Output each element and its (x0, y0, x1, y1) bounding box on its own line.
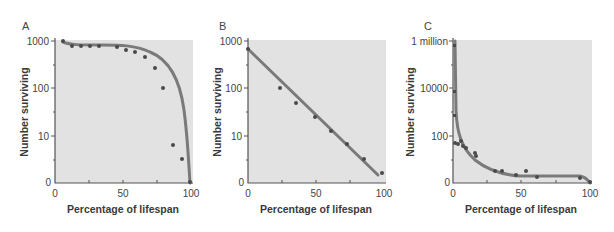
panel-c-plot-area (453, 40, 592, 183)
panel-a-plot-area (55, 40, 193, 183)
panel-b-xlabel: Percentage of lifespan (260, 203, 372, 215)
panel-a-ytick-0: 0 (45, 177, 51, 188)
panel-b-ytick-1000: 1000 (220, 36, 243, 47)
panel-b-letter: B (219, 20, 226, 32)
panel-b: B 1000 100 10 0 0 50 100 Percentage of l… (211, 20, 393, 215)
panel-c-ytick-100: 100 (431, 131, 448, 142)
panel-a-xtick-100: 100 (183, 188, 200, 199)
panel-c-xtick-100: 100 (582, 188, 599, 199)
panel-b-ytick-100: 100 (225, 83, 242, 94)
panel-c-ytick-0: 0 (444, 177, 450, 188)
panel-a-ytick-10: 10 (38, 131, 50, 142)
panel-b-xtick-50: 50 (310, 188, 322, 199)
panel-c-ytick-10000: 10000 (420, 83, 448, 94)
panel-c-xlabel: Percentage of lifespan (465, 203, 577, 215)
panel-a-ytick-100: 100 (32, 83, 49, 94)
panel-c: C 1 million 10000 100 0 0 50 100 Percent… (404, 20, 599, 215)
panel-a-ylabel: Number surviving (18, 67, 30, 156)
panel-a-xtick-50: 50 (117, 188, 129, 199)
panel-c-letter: C (424, 20, 432, 32)
panel-c-ylabel: Number surviving (404, 67, 416, 156)
panel-b-xtick-0: 0 (245, 188, 251, 199)
panel-a: A 1000 100 10 0 0 50 100 Percentage of l… (18, 20, 200, 215)
panel-b-ylabel: Number surviving (211, 67, 223, 156)
panel-b-xtick-100: 100 (376, 188, 393, 199)
panel-a-xtick-0: 0 (52, 188, 58, 199)
panel-a-ytick-1000: 1000 (27, 36, 50, 47)
survivorship-figure: A 1000 100 10 0 0 50 100 Percentage of l… (0, 0, 614, 232)
panel-a-letter: A (22, 20, 30, 32)
panel-b-ytick-0: 0 (238, 177, 244, 188)
panel-a-xlabel: Percentage of lifespan (67, 203, 179, 215)
panel-c-xtick-0: 0 (450, 188, 456, 199)
panel-b-ytick-10: 10 (231, 131, 243, 142)
panel-c-ytick-1million: 1 million (411, 36, 448, 47)
panel-c-xtick-50: 50 (515, 188, 527, 199)
